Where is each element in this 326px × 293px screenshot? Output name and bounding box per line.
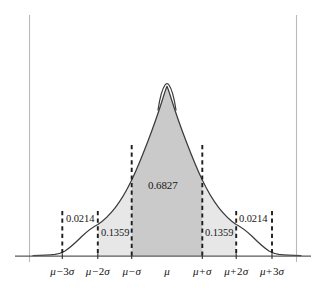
sigma-glyph: σ	[69, 265, 75, 277]
sigma-glyph: σ	[279, 265, 285, 277]
mu-glyph: μ	[86, 265, 92, 277]
region-minus-2-to-minus-1-sigma	[98, 180, 132, 256]
mu-glyph: μ	[50, 265, 56, 277]
minus-operator: −	[56, 265, 63, 277]
plus-operator: +	[230, 265, 237, 277]
sigma-glyph: σ	[243, 265, 249, 277]
axis-tick-label-mu-plus-sigma: μ+σ	[193, 266, 211, 277]
plus-operator: +	[266, 265, 273, 277]
mu-glyph: μ	[122, 265, 128, 277]
axis-tick-label-mu-plus-3sigma: μ+3σ	[260, 266, 284, 277]
area-label-1359-right: 0.1359	[205, 228, 233, 239]
axis-tick-label-mu: μ	[164, 266, 170, 277]
plus-operator: +	[199, 265, 206, 277]
sigma-glyph: σ	[135, 265, 141, 277]
area-label-6827-center: 0.6827	[148, 180, 178, 191]
axis-tick-label-mu-plus-2sigma: μ+2σ	[224, 266, 248, 277]
mu-glyph: μ	[164, 265, 170, 277]
axis-tick-label-mu-minus-2sigma: μ−2σ	[86, 266, 110, 277]
mu-glyph: μ	[260, 265, 266, 277]
area-label-0214-left: 0.0214	[66, 214, 94, 225]
area-label-0214-right: 0.0214	[239, 214, 267, 225]
axis-tick-label-mu-minus-3sigma: μ−3σ	[50, 266, 74, 277]
region-center-one-sigma	[132, 86, 203, 256]
sigma-glyph: σ	[104, 265, 110, 277]
area-label-1359-left: 0.1359	[101, 228, 129, 239]
minus-operator: −	[91, 265, 98, 277]
distribution-chart-canvas	[0, 0, 326, 293]
normal-distribution-figure: 0.0214 0.1359 0.6827 0.1359 0.0214 μ−3σ …	[0, 0, 326, 293]
mu-glyph: μ	[224, 265, 230, 277]
region-plus-1-to-plus-2-sigma	[202, 180, 236, 256]
mu-glyph: μ	[193, 265, 199, 277]
axis-tick-label-mu-minus-sigma: μ−σ	[122, 266, 140, 277]
sigma-glyph: σ	[206, 265, 212, 277]
minus-operator: −	[128, 265, 135, 277]
